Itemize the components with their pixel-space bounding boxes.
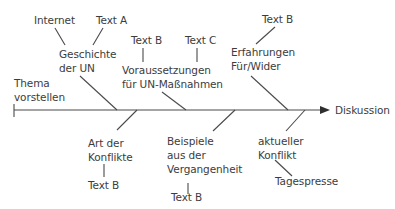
sub-label-textb: Text B [131, 33, 162, 47]
sub-label-internet: Internet [34, 13, 75, 27]
branch-erfahrungen [251, 76, 288, 110]
branch-art [117, 110, 137, 130]
branch-voraussetzungen [162, 92, 186, 110]
arrow-head-icon [320, 106, 330, 114]
sub-label-textb: Text B [262, 12, 293, 26]
branch-label-geschichte: Geschichte der UN [59, 47, 116, 75]
branch-label-art: Art der Konflikte [88, 136, 133, 164]
branch-beispiele [213, 110, 235, 131]
sub-label-textc: Text C [185, 33, 216, 47]
branch-aktueller [286, 110, 305, 131]
branch-label-beispiele: Beispiele aus der Vergangenheit [167, 134, 242, 176]
sub-label-textb: Text B [171, 190, 202, 204]
branch-label-erfahrungen: Erfahrungen Für/Wider [231, 45, 295, 73]
sub-label-texta: Text A [96, 13, 127, 27]
branch-label-aktueller: aktueller Konflikt [258, 134, 303, 162]
sub-textb-2 [256, 27, 275, 44]
sub-internet [55, 28, 65, 45]
branch-label-voraussetzungen: Voraussetzungen für UN-Maßnahmen [122, 63, 223, 91]
sub-label-tagespresse: Tagespresse [275, 174, 338, 188]
sub-label-textb: Text B [88, 178, 119, 192]
sub-texta [93, 28, 103, 45]
end-label: Diskussion [335, 103, 390, 117]
start-label: Thema vorstellen [14, 76, 65, 104]
branch-geschichte [80, 76, 117, 110]
